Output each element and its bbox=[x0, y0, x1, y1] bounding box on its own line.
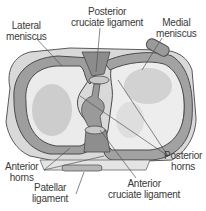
label-lateral-meniscus: Lateral meniscus bbox=[6, 20, 47, 42]
label-anterior-horns: Anterior horns bbox=[5, 161, 38, 183]
label-line: Patellar bbox=[32, 182, 68, 193]
label-line: Anterior bbox=[5, 161, 38, 172]
knee-meniscus-diagram: Lateral meniscus Posterior cruciate liga… bbox=[0, 0, 206, 211]
label-line: Posterior bbox=[71, 6, 143, 17]
label-line: horns bbox=[164, 161, 202, 172]
medial-cartilage bbox=[124, 68, 172, 104]
label-medial-meniscus: Medial meniscus bbox=[156, 17, 197, 39]
label-line: Medial bbox=[156, 17, 197, 28]
label-line: Posterior bbox=[164, 150, 202, 161]
label-anterior-cruciate-ligament: Anterior cruciate ligament bbox=[108, 178, 180, 200]
label-line: Anterior bbox=[108, 178, 180, 189]
label-line: Lateral bbox=[6, 20, 47, 31]
label-posterior-horns: Posterior horns bbox=[164, 150, 202, 172]
lateral-cartilage bbox=[32, 84, 72, 136]
label-line: ligament bbox=[32, 193, 68, 204]
patellar-ligament bbox=[62, 165, 102, 171]
pcl-attachment bbox=[89, 76, 109, 84]
label-patellar-ligament: Patellar ligament bbox=[32, 182, 68, 204]
label-line: cruciate ligament bbox=[108, 189, 180, 200]
label-line: meniscus bbox=[156, 28, 197, 39]
label-posterior-cruciate-ligament: Posterior cruciate ligament bbox=[71, 6, 143, 28]
label-line: cruciate ligament bbox=[71, 17, 143, 28]
medial-cartilage-2 bbox=[116, 102, 144, 138]
label-line: meniscus bbox=[6, 31, 47, 42]
